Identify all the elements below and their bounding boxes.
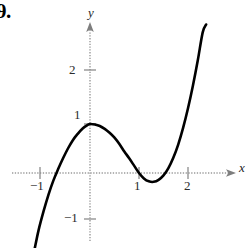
- x-axis-arrow-icon: [226, 169, 236, 177]
- y-tick-label-2: 2: [69, 63, 76, 76]
- y-axis-label: y: [88, 6, 94, 19]
- x-tick-label-2: 2: [184, 179, 191, 192]
- graph-plot: [0, 0, 252, 248]
- x-axis-label: x: [239, 161, 245, 174]
- figure-container: 9. y x 2 1 −1 −1 1 2: [0, 0, 252, 248]
- x-tick-label-1: 1: [134, 179, 141, 192]
- y-tick-label-neg1: −1: [64, 211, 78, 224]
- x-tick-label-neg1: −1: [30, 179, 44, 192]
- y-tick-label-1: 1: [74, 108, 81, 121]
- function-curve: [35, 25, 207, 248]
